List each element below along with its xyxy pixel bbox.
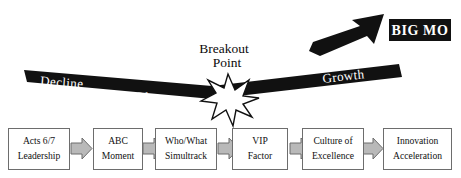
momentum-arrow-icon [309,14,384,56]
big-mo-badge: BIG MO [389,19,451,41]
stage-box-line1: Who/What [165,134,207,149]
stage-box-culture-of-excellence[interactable]: Culture of Excellence [302,128,364,170]
stage-box-who-what-simultrack[interactable]: Who/What Simultrack [155,128,217,170]
big-mo-label: BIG MO [392,23,449,38]
breakout-label-line2: Point [213,55,242,70]
stage-box-line1: ABC [108,134,128,149]
chevron-icon-1 [71,138,92,159]
stage-box-line1: Acts 6/7 [23,134,55,149]
stage-box-innovation-acceleration[interactable]: Innovation Acceleration [383,128,452,170]
momentum-diagram: Decline or Plateau Growth Breakout Point… [0,0,461,178]
stage-box-line1: VIP [252,134,267,149]
stage-box-line2: Leadership [18,149,61,164]
band-label-growth: Growth [322,66,366,86]
band-label-or: or [103,86,116,102]
stage-box-line1: Culture of [313,134,352,149]
stage-box-vip-factor[interactable]: VIP Factor [232,128,288,170]
band-label-plateau: Plateau [137,89,179,105]
stage-box-line2: Moment [102,149,135,164]
stage-box-acts-leadership[interactable]: Acts 6/7 Leadership [8,128,70,170]
stage-box-line2: Acceleration [393,149,442,164]
breakout-label-line1: Breakout [199,41,249,56]
stage-box-abc-moment[interactable]: ABC Moment [93,128,143,170]
stage-box-line2: Excellence [312,149,354,164]
band-label-decline: Decline [40,73,84,91]
stage-box-line2: Simultrack [165,149,207,164]
stage-box-line1: Innovation [397,134,439,149]
chevron-icon-5 [362,138,383,159]
stage-box-line2: Factor [248,149,273,164]
